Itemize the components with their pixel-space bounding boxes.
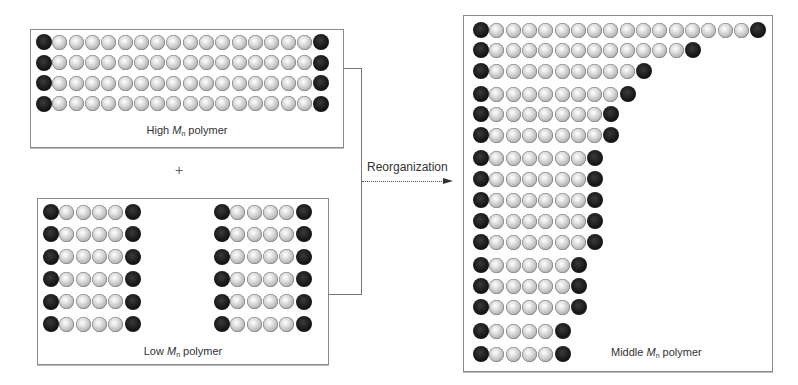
repeat-unit-bead <box>279 272 294 287</box>
repeat-unit-bead <box>215 76 230 91</box>
repeat-unit-bead <box>522 43 537 58</box>
end-group-bead <box>473 106 489 122</box>
repeat-unit-bead <box>101 35 116 50</box>
plus-sign: + <box>175 162 183 178</box>
repeat-unit-bead <box>571 151 586 166</box>
end-group-bead <box>125 294 141 310</box>
repeat-unit-bead <box>247 317 262 332</box>
repeat-unit-bead <box>76 205 91 220</box>
repeat-unit-bead <box>489 43 504 58</box>
repeat-unit-bead <box>522 235 537 250</box>
repeat-unit-bead <box>538 172 553 187</box>
repeat-unit-bead <box>166 96 181 111</box>
repeat-unit-bead <box>555 300 570 315</box>
repeat-unit-bead <box>522 64 537 79</box>
repeat-unit-bead <box>247 227 262 242</box>
bracket-bottom <box>328 294 362 295</box>
repeat-unit-bead <box>108 249 123 264</box>
repeat-unit-bead <box>263 227 278 242</box>
arrowhead-icon <box>443 178 453 184</box>
repeat-unit-bead <box>134 76 149 91</box>
repeat-unit-bead <box>263 272 278 287</box>
repeat-unit-bead <box>603 64 618 79</box>
repeat-unit-bead <box>92 317 107 332</box>
repeat-unit-bead <box>522 193 537 208</box>
end-group-bead <box>473 234 489 250</box>
repeat-unit-bead <box>522 258 537 273</box>
end-group-bead <box>214 271 230 287</box>
end-group-bead <box>313 75 329 91</box>
repeat-unit-bead <box>263 294 278 309</box>
repeat-unit-bead <box>506 172 521 187</box>
end-group-bead <box>620 86 636 102</box>
repeat-unit-bead <box>92 205 107 220</box>
repeat-unit-bead <box>247 249 262 264</box>
repeat-unit-bead <box>538 23 553 38</box>
repeat-unit-bead <box>199 55 214 70</box>
end-group-bead <box>214 294 230 310</box>
repeat-unit-bead <box>101 55 116 70</box>
repeat-unit-bead <box>489 324 504 339</box>
end-group-bead <box>296 316 312 332</box>
end-group-bead <box>603 127 619 143</box>
repeat-unit-bead <box>522 107 537 122</box>
repeat-unit-bead <box>248 76 263 91</box>
repeat-unit-bead <box>52 76 67 91</box>
repeat-unit-bead <box>108 317 123 332</box>
repeat-unit-bead <box>248 96 263 111</box>
repeat-unit-bead <box>166 55 181 70</box>
repeat-unit-bead <box>555 258 570 273</box>
repeat-unit-bead <box>297 35 312 50</box>
repeat-unit-bead <box>538 64 553 79</box>
repeat-unit-bead <box>571 107 586 122</box>
repeat-unit-bead <box>620 43 635 58</box>
repeat-unit-bead <box>215 35 230 50</box>
repeat-unit-bead <box>85 35 100 50</box>
repeat-unit-bead <box>489 279 504 294</box>
repeat-unit-bead <box>587 87 602 102</box>
repeat-unit-bead <box>279 227 294 242</box>
repeat-unit-bead <box>76 249 91 264</box>
repeat-unit-bead <box>489 64 504 79</box>
repeat-unit-bead <box>85 76 100 91</box>
repeat-unit-bead <box>506 107 521 122</box>
repeat-unit-bead <box>52 35 67 50</box>
high-mn-label: High Mn polymer <box>31 124 343 137</box>
repeat-unit-bead <box>571 214 586 229</box>
repeat-unit-bead <box>92 227 107 242</box>
repeat-unit-bead <box>685 23 700 38</box>
repeat-unit-bead <box>150 55 165 70</box>
repeat-unit-bead <box>506 43 521 58</box>
repeat-unit-bead <box>263 317 278 332</box>
repeat-unit-bead <box>279 205 294 220</box>
end-group-bead <box>473 171 489 187</box>
end-group-bead <box>313 34 329 50</box>
end-group-bead <box>214 226 230 242</box>
repeat-unit-bead <box>555 193 570 208</box>
repeat-unit-bead <box>150 76 165 91</box>
repeat-unit-bead <box>134 96 149 111</box>
end-group-bead <box>296 249 312 265</box>
repeat-unit-bead <box>506 214 521 229</box>
repeat-unit-bead <box>118 35 133 50</box>
repeat-unit-bead <box>522 87 537 102</box>
repeat-unit-bead <box>263 205 278 220</box>
repeat-unit-bead <box>506 324 521 339</box>
repeat-unit-bead <box>538 279 553 294</box>
repeat-unit-bead <box>263 249 278 264</box>
repeat-unit-bead <box>108 227 123 242</box>
repeat-unit-bead <box>248 55 263 70</box>
repeat-unit-bead <box>538 300 553 315</box>
end-group-bead <box>36 55 52 71</box>
repeat-unit-bead <box>230 249 245 264</box>
repeat-unit-bead <box>538 324 553 339</box>
repeat-unit-bead <box>166 76 181 91</box>
repeat-unit-bead <box>76 317 91 332</box>
repeat-unit-bead <box>279 317 294 332</box>
repeat-unit-bead <box>279 249 294 264</box>
repeat-unit-bead <box>489 193 504 208</box>
repeat-unit-bead <box>603 43 618 58</box>
repeat-unit-bead <box>230 317 245 332</box>
repeat-unit-bead <box>571 43 586 58</box>
end-group-bead <box>214 204 230 220</box>
